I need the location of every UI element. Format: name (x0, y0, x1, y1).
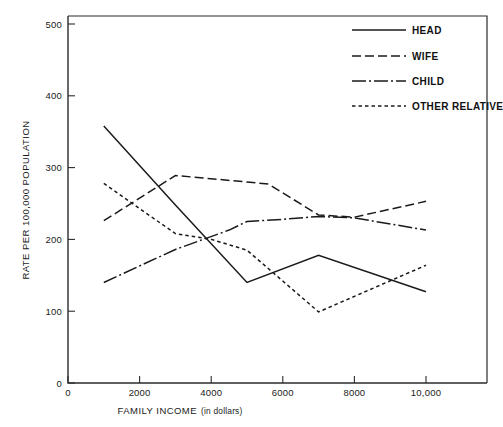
y-tick-label-0: 0 (57, 378, 62, 389)
frame-top-right (68, 16, 487, 383)
x-axis-ticks (68, 376, 426, 383)
x-axis-tick-labels: 0 2000 4000 6000 8000 10,000 (65, 387, 441, 398)
x-tick-label-2000: 2000 (129, 387, 151, 398)
y-tick-label-500: 500 (46, 19, 62, 30)
y-tick-label-200: 200 (46, 234, 62, 245)
series-line-wife (104, 176, 426, 221)
y-tick-label-100: 100 (46, 306, 62, 317)
chart-figure: 0 100 200 300 400 500 RATE PER 100,000 P… (0, 0, 503, 427)
y-axis-title: RATE PER 100,000 POPULATION (20, 120, 31, 279)
y-tick-label-400: 400 (46, 90, 62, 101)
series-line-other-relative (104, 183, 426, 312)
x-tick-label-10000: 10,000 (411, 387, 441, 398)
legend-label-wife: WIFE (412, 51, 438, 62)
plot-frame (68, 16, 487, 383)
legend-label-head: HEAD (412, 25, 442, 36)
y-axis-tick-labels: 0 100 200 300 400 500 (46, 19, 62, 389)
x-tick-label-4000: 4000 (200, 387, 222, 398)
x-tick-label-8000: 8000 (343, 387, 365, 398)
x-axis-title-unit: (in dollars) (201, 406, 243, 416)
x-axis-title: FAMILY INCOME (118, 405, 197, 416)
line-chart: 0 100 200 300 400 500 RATE PER 100,000 P… (0, 0, 503, 427)
legend-label-other-relative: OTHER RELATIVE (412, 101, 503, 112)
x-axis-title-group: FAMILY INCOME (in dollars) (118, 405, 243, 416)
legend-label-child: CHILD (412, 76, 444, 87)
series-group (104, 126, 426, 312)
x-tick-label-6000: 6000 (272, 387, 294, 398)
series-line-head (104, 126, 426, 292)
chart-legend: HEAD WIFE CHILD OTHER RELATIVE (352, 25, 503, 112)
series-line-child (104, 216, 426, 282)
x-tick-label-0: 0 (65, 387, 70, 398)
frame-left-bottom (68, 16, 487, 383)
y-axis-ticks (68, 24, 75, 383)
y-tick-label-300: 300 (46, 162, 62, 173)
